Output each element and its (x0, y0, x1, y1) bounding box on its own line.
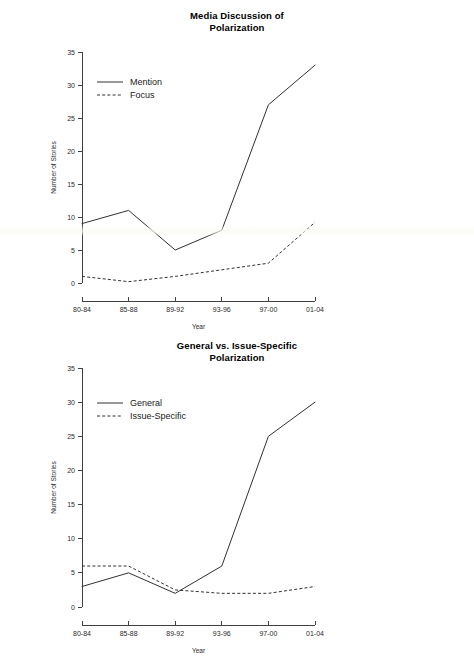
y-tick-label: 10 (67, 535, 75, 542)
y-tick-label: 30 (67, 82, 75, 89)
chart-1-plot: 0510152025303580-8485-8889-9293-9697-000… (0, 0, 474, 335)
y-tick-label: 20 (67, 467, 75, 474)
y-tick-label: 10 (67, 214, 75, 221)
y-tick-label: 0 (71, 280, 75, 287)
x-tick-label: 89-92 (166, 630, 184, 637)
y-tick-label: 5 (71, 247, 75, 254)
chart-media-discussion: Media Discussion of Polarization 0510152… (0, 0, 474, 335)
y-tick-label: 30 (67, 399, 75, 406)
x-tick-label: 80-84 (73, 306, 91, 313)
x-tick-label: 01-04 (306, 306, 324, 313)
legend-label-2: Focus (130, 90, 155, 100)
y-tick-label: 15 (67, 181, 75, 188)
y-axis-title: Number of Stories (50, 461, 57, 514)
x-tick-label: 85-88 (120, 306, 138, 313)
chart-2-plot: 0510152025303580-8485-8889-9293-9697-000… (0, 335, 474, 668)
y-axis-title: Number of Stories (50, 141, 57, 194)
legend-label-1: Mention (130, 77, 162, 87)
series-line-general (82, 402, 315, 593)
x-axis-title: Year (192, 323, 206, 330)
x-tick-label: 80-84 (73, 630, 91, 637)
y-tick-label: 0 (71, 604, 75, 611)
y-tick-label: 35 (67, 365, 75, 372)
x-axis-title: Year (192, 647, 206, 654)
y-tick-label: 5 (71, 569, 75, 576)
y-tick-label: 20 (67, 148, 75, 155)
x-tick-label: 97-00 (259, 630, 277, 637)
x-tick-label: 93-96 (213, 306, 231, 313)
legend-label-1: General (130, 398, 162, 408)
chart-general-vs-issue-specific: General vs. Issue-Specific Polarization … (0, 335, 474, 668)
x-tick-label: 97-00 (259, 306, 277, 313)
legend-label-2: Issue-Specific (130, 411, 187, 421)
series-line-mention (82, 65, 315, 250)
y-tick-label: 25 (67, 115, 75, 122)
y-tick-label: 35 (67, 49, 75, 56)
x-tick-label: 93-96 (213, 630, 231, 637)
x-tick-label: 85-88 (120, 630, 138, 637)
y-tick-label: 15 (67, 501, 75, 508)
y-tick-label: 25 (67, 433, 75, 440)
x-tick-label: 89-92 (166, 306, 184, 313)
series-line-focus (82, 222, 315, 281)
x-tick-label: 01-04 (306, 630, 324, 637)
